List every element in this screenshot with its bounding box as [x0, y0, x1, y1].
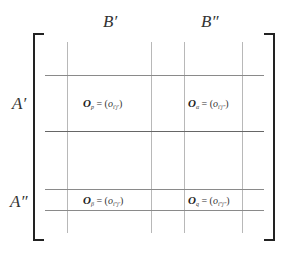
- equals-sign: =: [96, 195, 102, 206]
- left-bracket-stem: [33, 33, 35, 241]
- grid-horizontal-line-2: [45, 131, 264, 132]
- block-symbol: O: [83, 97, 91, 109]
- close-paren: ): [226, 195, 229, 206]
- block-symbol: O: [83, 194, 91, 206]
- grid-horizontal-line-3: [45, 189, 264, 190]
- row-label-a-double-prime: A″: [10, 193, 27, 210]
- column-label-b-prime: B′: [103, 13, 117, 30]
- block-formula-oalpha: Oα = (oi′j″): [188, 98, 229, 110]
- grid-vertical-line-3: [184, 42, 185, 233]
- left-bracket-top-serif: [33, 33, 44, 35]
- grid-vertical-line-4: [242, 42, 243, 233]
- block-subscript: p: [91, 104, 94, 110]
- grid-vertical-line-1: [67, 42, 68, 233]
- equals-sign: =: [201, 195, 207, 206]
- close-paren: ): [119, 98, 122, 109]
- row-label-a-prime: A′: [12, 95, 26, 112]
- right-bracket-top-serif: [264, 33, 275, 35]
- block-symbol: O: [188, 194, 196, 206]
- equals-sign: =: [202, 98, 208, 109]
- grid-vertical-line-2: [151, 42, 152, 233]
- block-subscript: β: [91, 201, 94, 207]
- right-bracket-stem: [273, 33, 275, 241]
- block-formula-op: Op = (oi′j′): [83, 98, 122, 110]
- block-subscript: q: [196, 201, 199, 207]
- equals-sign: =: [96, 98, 102, 109]
- block-formula-obeta: Oβ = (oi″j′): [83, 195, 123, 207]
- block-subscript: α: [196, 104, 199, 110]
- column-label-b-double-prime: B″: [201, 13, 218, 30]
- close-paren: ): [225, 98, 228, 109]
- left-bracket-bottom-serif: [33, 239, 44, 241]
- block-symbol: O: [188, 97, 196, 109]
- right-bracket-bottom-serif: [264, 239, 275, 241]
- block-formula-oq: Oq = (oi″j″): [188, 195, 230, 207]
- grid-horizontal-line-1: [45, 75, 264, 76]
- grid-horizontal-line-4: [45, 210, 264, 211]
- close-paren: ): [120, 195, 123, 206]
